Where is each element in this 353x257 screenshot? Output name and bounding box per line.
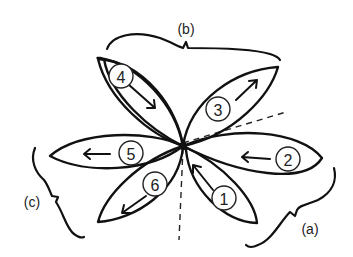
brace-a	[246, 168, 335, 247]
badge-4: 4	[109, 64, 133, 88]
badge-6: 6	[143, 172, 167, 196]
petal-2	[183, 133, 322, 174]
badge-4-text: 4	[117, 69, 126, 86]
badge-2-text: 2	[284, 152, 293, 169]
badge-1-text: 1	[220, 191, 229, 208]
diagonal-dashed-guide	[183, 112, 286, 143]
arrow-5-icon	[84, 149, 110, 159]
group-label-b: (b)	[177, 21, 194, 37]
badge-3: 3	[206, 97, 230, 121]
petal-diagram: 4 3 2 1 6 5 (b) (a) (c)	[0, 0, 353, 257]
brace-b	[107, 34, 280, 60]
badge-1: 1	[212, 186, 236, 210]
badge-2: 2	[276, 147, 300, 171]
arrow-6-icon	[122, 196, 146, 213]
badge-5: 5	[119, 141, 143, 165]
brace-c	[33, 148, 84, 237]
petal-center	[179, 142, 187, 150]
petals	[50, 58, 322, 223]
badge-6-text: 6	[151, 177, 160, 194]
arrow-1-icon	[193, 165, 213, 190]
arrow-2-icon	[242, 152, 270, 162]
group-label-a: (a)	[301, 221, 318, 237]
badge-5-text: 5	[127, 146, 136, 163]
petal-5	[50, 135, 183, 168]
guide-lines	[179, 112, 286, 240]
arrow-3-icon	[236, 80, 257, 100]
badge-3-text: 3	[214, 102, 223, 119]
group-label-c: (c)	[24, 194, 40, 210]
